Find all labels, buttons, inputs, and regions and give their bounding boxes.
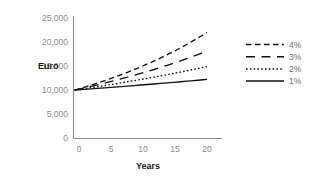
legend-label-4pct: 4%: [289, 40, 302, 50]
y-tick-label: 20,000: [42, 37, 68, 47]
legend-label-2pct: 2%: [289, 64, 302, 74]
chart-canvas: 25,000 20,000 15,000 10,000 5,000 0 Euro…: [0, 0, 317, 180]
y-tick-label: 10,000: [42, 85, 68, 95]
legend-label-3pct: 3%: [289, 52, 302, 62]
x-tick-label: 0: [77, 144, 82, 154]
series-line-1pct: [75, 79, 208, 90]
y-axis-title: Euro: [38, 61, 59, 71]
x-tick-label: 20: [202, 144, 212, 154]
x-tick-label: 5: [109, 144, 114, 154]
x-axis-tick-labels: 0 5 10 15 20: [77, 144, 212, 154]
y-tick-label: 25,000: [42, 13, 68, 23]
series-line-2pct: [75, 67, 208, 91]
y-tick-label: 0: [63, 133, 68, 143]
y-axis-tick-labels: 25,000 20,000 15,000 10,000 5,000 0: [42, 13, 68, 143]
x-tick-label: 15: [170, 144, 180, 154]
legend-label-1pct: 1%: [289, 76, 302, 86]
chart-legend: 4%3%2%1%: [246, 40, 302, 87]
y-tick-label: 5,000: [47, 109, 69, 119]
compound-interest-chart: 25,000 20,000 15,000 10,000 5,000 0 Euro…: [0, 0, 317, 180]
x-axis-title: Years: [136, 161, 160, 171]
series-group: [75, 32, 208, 90]
x-tick-label: 10: [138, 144, 148, 154]
